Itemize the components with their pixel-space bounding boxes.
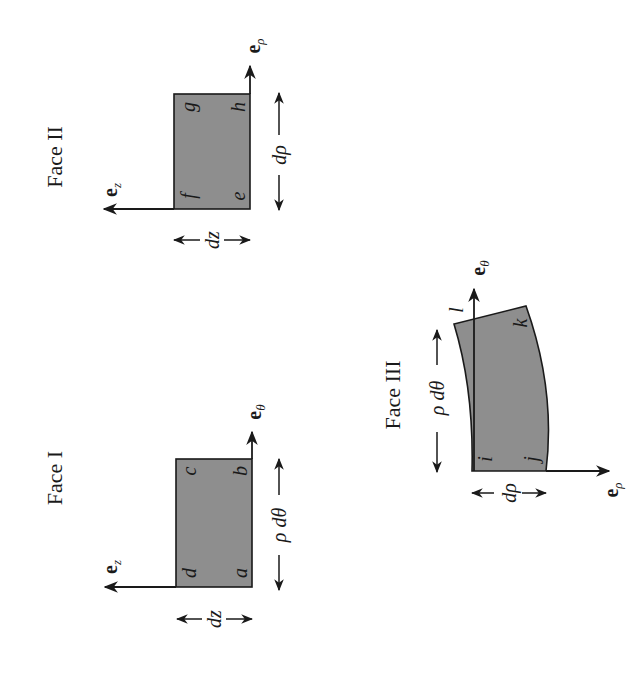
face-2-erho-label: eρ: [242, 38, 267, 53]
face-2-dz-label: dz: [201, 231, 223, 249]
face-2-drho-label: dρ: [268, 145, 291, 165]
face-1-rhodtheta-label: ρ dθ: [268, 508, 291, 544]
face-3-group: Face III eθ eρ i j k l dρ ρ dθ: [380, 260, 625, 503]
face-3-curved-shape: [454, 306, 549, 471]
face-1-rectangle: [176, 459, 252, 587]
corner-label-l: l: [445, 307, 467, 313]
face-3-etheta-label: eθ: [467, 260, 492, 276]
face-1-group: Face I ez eθ a b c d dz ρ dθ: [42, 404, 291, 628]
face-3-rhodtheta-label: ρ dθ: [426, 381, 449, 417]
face-2-group: Face II ez eρ e h g f dz dρ: [42, 38, 291, 248]
face-2-title: Face II: [42, 126, 67, 188]
face-1-etheta-label: eθ: [243, 404, 268, 420]
corner-label-g: g: [177, 102, 200, 112]
face-3-erho-label: eρ: [600, 482, 625, 497]
face-1-ez-label: ez: [99, 560, 124, 574]
corner-label-i: i: [474, 456, 496, 462]
corner-label-k: k: [509, 317, 531, 327]
corner-label-c: c: [178, 466, 200, 475]
corner-label-a: a: [229, 568, 251, 578]
face-3-title: Face III: [380, 360, 405, 429]
face-3-drho-label: dρ: [498, 483, 521, 503]
face-1-title: Face I: [42, 451, 67, 505]
face-2-ez-label: ez: [99, 183, 124, 197]
corner-label-d: d: [178, 567, 200, 578]
corner-label-e: e: [227, 191, 249, 200]
face-1-dz-label: dz: [203, 610, 225, 628]
corner-label-h: h: [227, 102, 249, 112]
cylindrical-element-faces-diagram: Face II ez eρ e h g f dz dρ Face I ez eθ…: [0, 0, 643, 693]
corner-label-b: b: [229, 466, 251, 476]
